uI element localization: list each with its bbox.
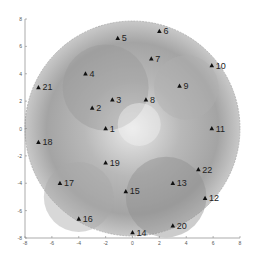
point-label: 10: [216, 61, 226, 71]
point-label: 4: [89, 69, 94, 79]
point-label: 15: [130, 186, 140, 196]
plot-area: [25, 21, 240, 237]
point-label: 21: [42, 82, 52, 92]
point-label: 1: [110, 124, 115, 134]
point-label: 14: [137, 228, 147, 238]
point-label: 19: [110, 158, 120, 168]
point-label: 18: [42, 137, 52, 147]
point-label: 13: [177, 178, 187, 188]
x-tick-label: -2: [103, 240, 108, 246]
point-label: 7: [155, 54, 160, 64]
y-tick-label: 8: [19, 16, 22, 22]
point-label: 17: [64, 178, 74, 188]
point-label: 22: [202, 165, 212, 175]
point-label: 20: [177, 221, 187, 231]
point-label: 5: [122, 33, 127, 43]
x-tick-label: 2: [158, 240, 161, 246]
y-tick-label: 0: [19, 126, 22, 132]
x-tick-label: 0: [131, 240, 134, 246]
point-label: 6: [163, 26, 168, 36]
x-tick-label: 6: [212, 240, 215, 246]
y-tick-label: 6: [19, 43, 22, 49]
y-tick-label: 2: [19, 98, 22, 104]
point-label: 11: [216, 124, 225, 134]
point-label: 12: [209, 193, 219, 203]
point-label: 9: [184, 81, 189, 91]
point-label: 3: [116, 95, 121, 105]
x-tick-label: -6: [50, 240, 55, 246]
point-label: 2: [96, 103, 101, 113]
y-tick-label: -6: [18, 208, 23, 214]
scatter-chart: -8-6-4-202468-8-6-4-202468 1234567891011…: [0, 0, 255, 257]
x-tick-label: -8: [23, 240, 28, 246]
point-label: 8: [150, 95, 155, 105]
point-label: 16: [83, 214, 93, 224]
y-tick-label: -8: [18, 235, 23, 241]
y-tick-label: 4: [19, 71, 22, 77]
y-tick-label: -2: [18, 153, 23, 159]
y-tick-label: -4: [18, 180, 23, 186]
x-tick-label: 8: [239, 240, 242, 246]
x-tick-label: 4: [185, 240, 188, 246]
x-tick-label: -4: [77, 240, 82, 246]
